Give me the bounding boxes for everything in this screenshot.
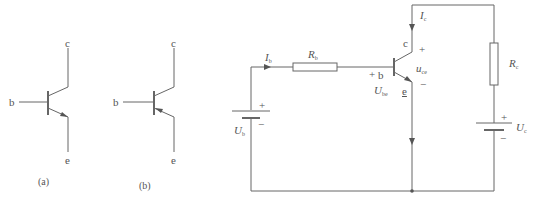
emitter-label: e — [171, 155, 176, 166]
circuit-wires — [251, 5, 494, 191]
base-supply-label: Ub — [234, 125, 245, 137]
emitter-arrow-icon — [155, 108, 163, 113]
caption-b: (b) — [139, 180, 151, 191]
collector-resistor-label: Rc — [509, 58, 518, 70]
collector-label: c — [65, 38, 70, 49]
emitter-arrow-icon — [404, 76, 412, 82]
transistor-collector-label: c — [403, 38, 408, 49]
base-supply-minus: − — [258, 119, 264, 130]
base-label: b — [9, 97, 15, 108]
collector-resistor — [490, 43, 498, 85]
pnp-transistor-symbol — [123, 48, 174, 152]
circuit-diagram — [0, 0, 533, 202]
collector-current-arrow-icon — [409, 24, 415, 31]
base-current-arrow-icon — [264, 64, 271, 70]
vce-plus: + — [419, 44, 425, 55]
junction-dot — [410, 189, 414, 193]
emitter-arrow-icon — [60, 112, 68, 117]
collector-label: c — [171, 38, 176, 49]
base-plus-sign: + — [369, 69, 375, 80]
transistor-emitter-label: e — [402, 86, 407, 97]
collector-supply-plus: + — [501, 112, 507, 123]
base-resistor-label: Rb — [308, 49, 318, 61]
collector-supply-label: Uc — [516, 122, 527, 134]
base-current-label: Ib — [265, 52, 272, 64]
vce-label: uce — [416, 63, 427, 75]
emitter-label: e — [65, 155, 70, 166]
collector-current-label: Ic — [420, 10, 426, 22]
vce-minus: − — [420, 79, 426, 90]
collector-supply-minus: − — [500, 133, 506, 144]
base-resistor — [293, 63, 337, 71]
base-label: b — [113, 97, 119, 108]
base-supply-plus: + — [259, 100, 265, 111]
emitter-current-arrow-icon — [409, 138, 415, 145]
vbe-label: Ube — [374, 85, 388, 97]
transistor-base-label: b — [378, 70, 384, 81]
npn-transistor-symbol — [19, 48, 68, 152]
caption-a: (a) — [38, 176, 49, 187]
